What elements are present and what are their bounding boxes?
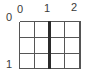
grid-figure: 0 1 2 0 1	[0, 0, 90, 77]
grid-lines	[0, 0, 90, 77]
